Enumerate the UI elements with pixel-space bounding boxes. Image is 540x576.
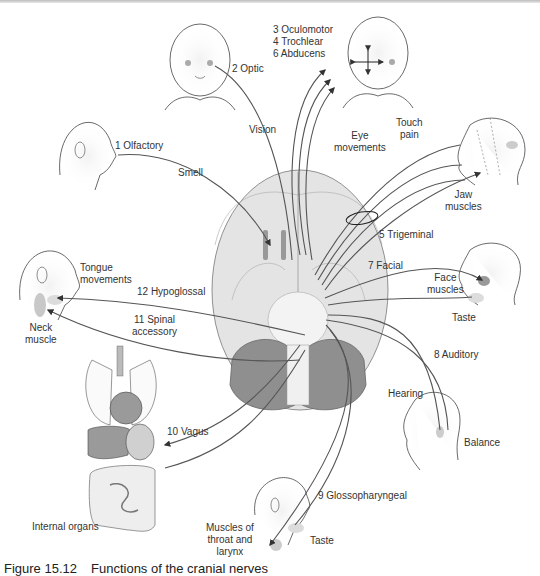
cerebellum-right [302, 339, 366, 409]
label-optic: 2 Optic [232, 63, 264, 75]
label-glossopharyngeal: 9 Glossopharyngeal [318, 490, 407, 502]
label-taste-face: Taste [452, 312, 476, 324]
liver [88, 426, 130, 459]
head-side-glossopharyngeal [255, 478, 310, 551]
label-vagus: 10 Vagus [167, 426, 209, 438]
label-tongue-movements: Tongue movements [80, 262, 132, 286]
olfactory-bulb-right [281, 230, 286, 260]
lung-left [86, 360, 112, 425]
label-facial: 7 Facial [368, 260, 403, 272]
label-taste-throat: Taste [310, 535, 334, 547]
figure-title: Functions of the cranial nerves [91, 561, 268, 576]
brainstem-pons [268, 292, 328, 348]
head-front-optic [165, 24, 235, 110]
label-hearing: Hearing [388, 388, 423, 400]
label-trigeminal: 5 Trigeminal [379, 229, 433, 241]
label-smell: Smell [178, 167, 203, 179]
internal-organs [86, 346, 156, 531]
label-touch-pain: Touch pain [396, 117, 423, 141]
cerebellum-left [230, 339, 295, 409]
label-face-muscles: Face muscles [427, 272, 464, 296]
label-hypoglossal: 12 Hypoglossal [137, 286, 205, 298]
head-side-hypoglossal [20, 251, 80, 320]
head-side-trigeminal [458, 118, 525, 185]
figure-caption: Figure 15.12Functions of the cranial ner… [4, 561, 268, 576]
intestines [89, 465, 155, 531]
stomach [126, 424, 154, 460]
label-olfactory: 1 Olfactory [115, 140, 163, 152]
label-eye-nerves: 3 Oculomotor 4 Trochlear 6 Abducens [273, 24, 333, 60]
label-jaw-muscles: Jaw muscles [445, 189, 482, 213]
head-side-auditory [404, 392, 460, 470]
label-throat-muscles: Muscles of throat and larynx [206, 522, 254, 558]
label-balance: Balance [464, 437, 500, 449]
head-side-olfactory [60, 122, 116, 190]
label-spinal-accessory: 11 Spinal accessory [132, 314, 177, 338]
label-internal-organs: Internal organs [32, 521, 99, 533]
label-auditory: 8 Auditory [434, 349, 478, 361]
head-front-eye [343, 17, 413, 108]
medulla [287, 345, 309, 405]
label-vision: Vision [249, 124, 276, 136]
trachea [117, 346, 123, 376]
label-eye-movements: Eye movements [334, 130, 386, 154]
label-neck-muscle: Neck muscle [25, 322, 57, 346]
heart [110, 392, 142, 424]
figure-number: Figure 15.12 [4, 561, 77, 576]
